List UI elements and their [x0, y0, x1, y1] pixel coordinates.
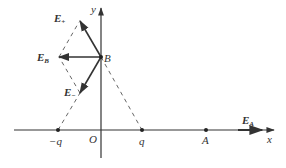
- e-b-label: EB: [36, 51, 49, 65]
- diagram-svg: y x O B A −q q E+ EB E− EA: [0, 0, 286, 168]
- charge-positive-q: [140, 128, 144, 132]
- charge-positive-q-label: q: [139, 135, 145, 147]
- point-a: [204, 128, 208, 132]
- dashed-construction-lines: [58, 22, 142, 130]
- e-plus-vector: [80, 21, 101, 57]
- x-axis-label: x: [266, 133, 272, 145]
- point-a-label: A: [201, 134, 209, 146]
- e-plus-label: E+: [53, 12, 65, 26]
- e-minus-vector: [80, 57, 101, 93]
- y-axis-label: y: [90, 3, 96, 15]
- charge-negative-q-label: −q: [49, 135, 62, 147]
- point-b-label: B: [104, 52, 111, 64]
- charge-negative-q: [56, 128, 60, 132]
- e-a-label: EA: [241, 114, 254, 128]
- e-minus-label: E−: [63, 86, 76, 100]
- origin-label: O: [89, 133, 97, 145]
- field-diagram: y x O B A −q q E+ EB E− EA: [0, 0, 286, 168]
- point-b: [99, 55, 103, 59]
